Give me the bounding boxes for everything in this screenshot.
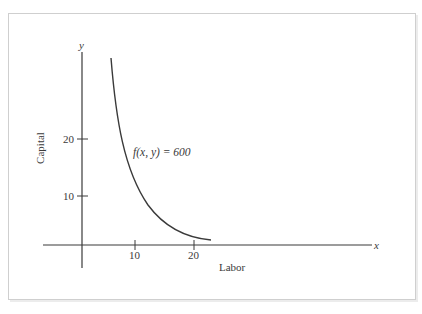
level-curve-plot bbox=[0, 0, 422, 314]
y-tick-label-10: 10 bbox=[63, 191, 74, 202]
x-axis-title: Labor bbox=[219, 262, 245, 273]
y-tick-label-20: 20 bbox=[63, 134, 74, 145]
curve-equation-label: f(x, y) = 600 bbox=[133, 147, 191, 159]
y-axis-symbol: y bbox=[79, 40, 84, 51]
x-tick-label-10: 10 bbox=[129, 250, 140, 261]
x-tick-label-20: 20 bbox=[188, 250, 199, 261]
y-axis-title: Capital bbox=[34, 132, 46, 164]
x-axis-symbol: x bbox=[374, 240, 379, 251]
